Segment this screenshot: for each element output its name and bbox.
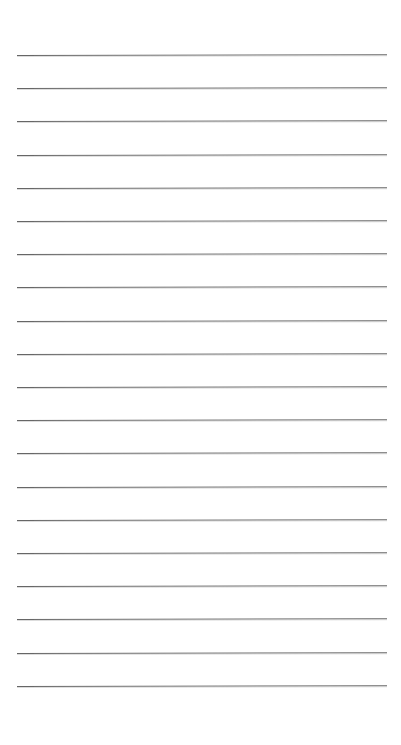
writing-line-row[interactable]	[0, 254, 401, 287]
writing-line-row[interactable]	[0, 653, 401, 686]
writing-line-row[interactable]	[0, 354, 401, 387]
lined-paper-page	[0, 0, 401, 745]
writing-line-row[interactable]	[0, 321, 401, 354]
writing-line-row[interactable]	[0, 55, 401, 88]
writing-line-row[interactable]	[0, 188, 401, 221]
writing-line-row[interactable]	[0, 287, 401, 320]
writing-line-row[interactable]	[0, 420, 401, 453]
writing-line-row[interactable]	[0, 121, 401, 154]
writing-line-row[interactable]	[0, 453, 401, 486]
writing-line-row[interactable]	[0, 619, 401, 652]
writing-line-row[interactable]	[0, 487, 401, 520]
writing-line-row[interactable]	[0, 520, 401, 553]
writing-line-row[interactable]	[0, 586, 401, 619]
writing-line-row[interactable]	[0, 0, 401, 55]
writing-line-row[interactable]	[0, 387, 401, 420]
ruled-line-area	[0, 0, 401, 745]
writing-line-row[interactable]	[0, 155, 401, 188]
writing-line-row[interactable]	[0, 553, 401, 586]
ruled-line	[17, 685, 387, 687]
writing-line-row[interactable]	[0, 221, 401, 254]
writing-line-row[interactable]	[0, 88, 401, 121]
